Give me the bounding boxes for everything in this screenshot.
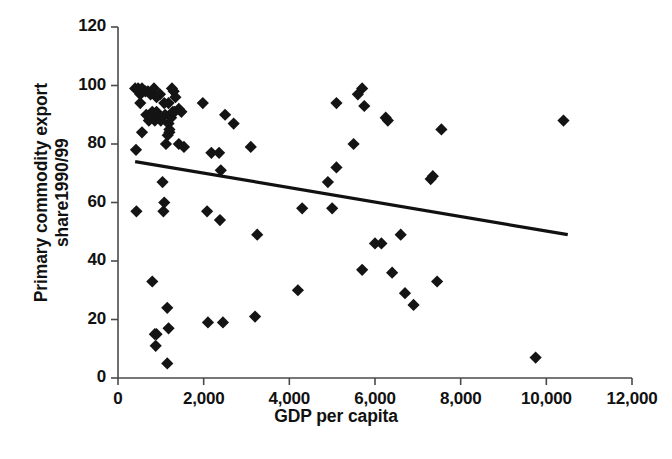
y-tick-label: 0 bbox=[97, 367, 106, 387]
y-tick-label: 120 bbox=[78, 16, 106, 36]
y-tick-label: 20 bbox=[87, 309, 106, 329]
y-tick-label: 60 bbox=[87, 192, 106, 212]
chart-figure: Primary commodity export share1990/99 GD… bbox=[0, 0, 672, 459]
data-points bbox=[129, 82, 570, 369]
trendline bbox=[135, 162, 568, 235]
y-tick-label: 100 bbox=[78, 75, 106, 95]
x-tick-label: 12,000 bbox=[582, 389, 672, 409]
y-tick-label: 80 bbox=[87, 133, 106, 153]
y-tick-label: 40 bbox=[87, 250, 106, 270]
axes bbox=[111, 27, 632, 385]
